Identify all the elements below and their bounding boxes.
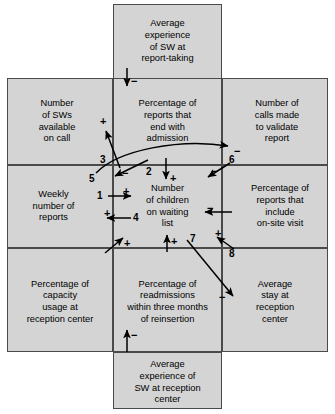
link-number-5: 5 xyxy=(89,174,95,184)
arrow-7 xyxy=(187,240,233,296)
link-number-3: 3 xyxy=(100,155,106,165)
arrow-left-bottom-to-center-mid xyxy=(105,238,123,253)
sign-center-bottom-plus: + xyxy=(171,236,177,247)
link-number-6: 6 xyxy=(229,155,235,165)
sign-left-bottom-plus: + xyxy=(124,238,130,249)
sign-arrow2-minus: − xyxy=(122,168,128,179)
link-number-4: 4 xyxy=(133,213,139,223)
sign-arrow4-plus: + xyxy=(104,208,110,219)
sign-right-mid-minus: − xyxy=(207,203,213,214)
diagram-canvas: Average experience of SW at report-takin… xyxy=(0,0,335,414)
sign-arrow8-plus: + xyxy=(215,228,221,239)
sign-arrow3-plus: + xyxy=(100,116,106,127)
link-number-2: 2 xyxy=(146,167,152,177)
link-number-1: 1 xyxy=(97,191,103,201)
sign-arrow1-plus: + xyxy=(123,186,129,197)
sign-bottom-minus: − xyxy=(131,330,137,341)
link-number-7: 7 xyxy=(190,234,196,244)
sign-top-minus: − xyxy=(131,76,137,87)
arrow-layer xyxy=(0,0,335,414)
arrow-3 xyxy=(106,131,120,168)
sign-arrow6-minus: − xyxy=(211,166,217,177)
link-number-8: 8 xyxy=(229,249,235,259)
sign-arrow7-minus: − xyxy=(219,292,225,303)
sign-center-top-plus: + xyxy=(170,173,176,184)
